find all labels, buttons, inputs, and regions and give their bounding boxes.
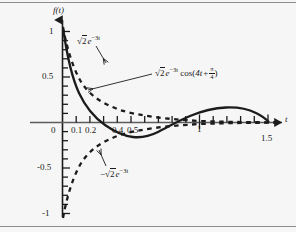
x-tick-label-1p5: 1.5 xyxy=(261,134,272,143)
close-paren: ) xyxy=(215,68,218,78)
plot-canvas xyxy=(0,0,296,232)
y-tick-label-0p5: 0.5 xyxy=(42,72,53,81)
x-tick-label-0p1: 0.1 xyxy=(71,126,82,135)
plus-sign: + xyxy=(203,68,208,78)
main-curve-annotation: √2e−3tcos(4t+π4) xyxy=(155,66,218,81)
y-axis-label: f(t) xyxy=(53,6,64,15)
x-axis-label: t xyxy=(285,115,288,124)
x-tick-label-0p2: 0.2 xyxy=(85,126,96,135)
callout-leader-lower xyxy=(99,150,106,166)
callout-leader-main xyxy=(88,74,152,90)
lower-envelope-curve xyxy=(63,123,278,218)
cos-argument: 4t xyxy=(195,68,202,78)
y-tick-label-neg0p5: -0.5 xyxy=(37,163,51,172)
x-tick-label-1: 1 xyxy=(197,125,202,134)
exponent: −3t xyxy=(91,34,100,41)
upper-envelope-annotation: √2e−3t xyxy=(77,35,100,46)
exponent: −3t xyxy=(120,167,129,174)
x-tick-label-0p4: 0.4 xyxy=(112,126,123,135)
exponent: −3t xyxy=(169,66,178,73)
figure-panel: f(t) t 1 0.5 0 -0.5 -1 0.1 0.2 0.4 0.5 1… xyxy=(0,0,296,232)
y-tick-label-1: 1 xyxy=(49,27,54,36)
lower-envelope-annotation: −√2e−3t xyxy=(100,168,128,179)
x-tick-label-0p5: 0.5 xyxy=(127,126,138,135)
cos-operator: cos xyxy=(180,68,192,78)
callout-leader-upper xyxy=(96,46,106,63)
y-tick-label-neg1: -1 xyxy=(42,209,50,218)
y-tick-label-0: 0 xyxy=(51,126,56,135)
